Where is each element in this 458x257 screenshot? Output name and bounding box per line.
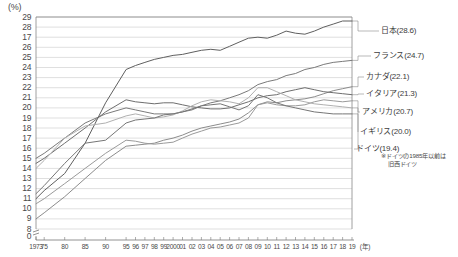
legend-item-canada: カナダ(22.1) — [366, 72, 409, 81]
footnote-line-1: ※ドイツの1985年以前は — [381, 152, 445, 160]
y-axis-tick-17: 17 — [9, 33, 31, 42]
y-axis-tick-23: 23 — [9, 73, 31, 82]
chart-container: (%) 292817262524232221201918171615141312… — [0, 0, 458, 257]
y-axis-tick-26: 26 — [9, 43, 31, 52]
y-axis-tick-15: 15 — [9, 154, 31, 163]
legend-item-france: フランス(24.7) — [373, 51, 424, 60]
y-axis-tick-19: 19 — [9, 114, 31, 123]
x-axis — [36, 237, 354, 240]
y-axis-tick-11: 11 — [9, 194, 31, 203]
y-axis-tick-28: 28 — [9, 23, 31, 32]
y-axis-tick-21: 21 — [9, 93, 31, 102]
y-axis-tick-14: 14 — [9, 164, 31, 173]
y-axis-tick-0: 0 — [9, 232, 31, 241]
series-line-アメリカ — [36, 100, 352, 204]
y-axis-tick-29: 29 — [9, 13, 31, 22]
x-axis-tick-90: 90 — [100, 243, 112, 250]
series-line-カナダ — [36, 87, 352, 219]
legend-item-japan: 日本(28.6) — [381, 26, 416, 35]
y-axis-tick-10: 10 — [9, 204, 31, 213]
y-axis-tick-18: 18 — [9, 124, 31, 133]
x-axis-tick-75: 75 — [38, 243, 50, 250]
x-axis-tick-80: 80 — [59, 243, 71, 250]
y-axis-tick-17: 17 — [9, 134, 31, 143]
y-axis-tick-13: 13 — [9, 174, 31, 183]
footnote-line-2: 旧西ドイツ — [388, 160, 417, 168]
series-lines — [36, 21, 352, 219]
y-axis-tick-16: 16 — [9, 144, 31, 153]
grid-lines — [36, 17, 352, 229]
legend-item-italy: イタリア(21.3) — [366, 89, 417, 98]
y-axis-tick-24: 24 — [9, 63, 31, 72]
y-axis-tick-22: 22 — [9, 83, 31, 92]
legend-item-uk: イギリス(20.0) — [360, 127, 411, 136]
y-axis-tick-12: 12 — [9, 184, 31, 193]
y-axis-tick-9: 9 — [9, 214, 31, 223]
x-axis-unit-label: (年) — [354, 243, 376, 250]
y-axis-tick-20: 20 — [9, 103, 31, 112]
x-axis-tick-85: 85 — [79, 243, 91, 250]
legend-item-usa: アメリカ(20.7) — [362, 107, 413, 116]
y-axis-tick-25: 25 — [9, 53, 31, 62]
